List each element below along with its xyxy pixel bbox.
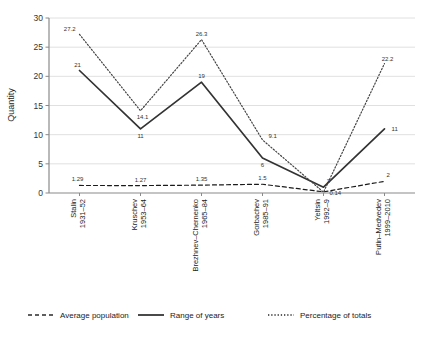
legend-label[interactable]: Average population	[60, 311, 129, 320]
x-axis-category-label[interactable]: Putin–Medvedev	[374, 199, 383, 255]
chart-container: 051015202530 Quantity 1.291.271.351.5221…	[0, 0, 432, 338]
data-label: 26.3	[196, 31, 208, 37]
data-label: 27.2	[64, 26, 76, 32]
x-axis-category-label[interactable]: Gorbachev	[252, 199, 261, 236]
x-axis-category-label[interactable]: 1999–2010	[383, 199, 392, 237]
y-tick-label: 5	[38, 159, 43, 169]
data-label: 1.35	[196, 176, 208, 182]
x-axis-category-label[interactable]: Yeltsin	[313, 199, 322, 221]
x-axis-category-label[interactable]: 1965–84	[200, 199, 209, 228]
legend-label[interactable]: Percentage of totals	[300, 311, 371, 320]
y-tick-label: 30	[34, 13, 44, 23]
data-label: 11	[137, 133, 144, 139]
data-label: 1.5	[258, 175, 267, 181]
x-axis-category-label[interactable]: 1931–52	[78, 199, 87, 228]
x-axis-category-label[interactable]: 1953–64	[139, 199, 148, 228]
line-chart-svg: 051015202530 Quantity 1.291.271.351.5221…	[0, 0, 432, 338]
data-label: 9.1	[269, 133, 278, 139]
y-axis-title: Quantity	[6, 88, 16, 122]
data-label: 11	[392, 126, 399, 132]
legend-group: Average populationRange of yearsPercenta…	[28, 311, 371, 320]
data-label: 14.1	[137, 114, 149, 120]
x-axis-category-label[interactable]: Brezhnev–Chernenko	[191, 199, 200, 272]
x-axis-category-label[interactable]: Kruschev	[130, 199, 139, 231]
y-tick-label: 15	[34, 101, 44, 111]
data-label: 1.29	[72, 176, 84, 182]
y-axis-ticks-group: 051015202530	[34, 13, 49, 198]
x-axis-category-label[interactable]: 1992–9	[322, 199, 331, 224]
x-axis-category-labels: Stalin1931–52Kruschev1953–64Brezhnev–Che…	[69, 193, 392, 272]
data-label: 0.14	[330, 190, 342, 196]
y-tick-label: 10	[34, 130, 44, 140]
data-label: 21	[74, 62, 81, 68]
legend-label[interactable]: Range of years	[170, 311, 224, 320]
y-tick-label: 0	[38, 188, 43, 198]
y-tick-label: 20	[34, 71, 44, 81]
x-axis-category-label[interactable]: 1985–91	[261, 199, 270, 228]
data-label: 22.2	[382, 56, 394, 62]
x-axis-category-label[interactable]: Stalin	[69, 199, 78, 218]
y-tick-label: 25	[34, 42, 44, 52]
data-label: 1.27	[135, 177, 147, 183]
data-label: 19	[198, 73, 205, 79]
